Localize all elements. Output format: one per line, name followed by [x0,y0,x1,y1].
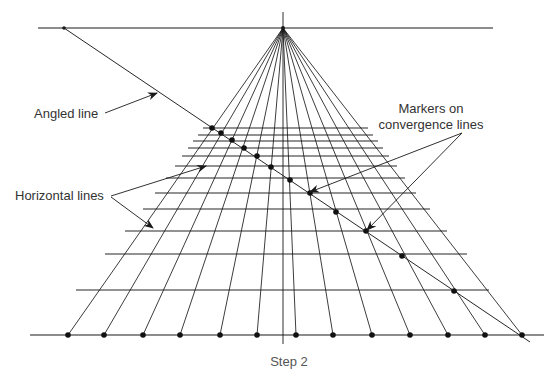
base-point [330,332,336,338]
markers-label-line1: Markers on [398,101,463,116]
convergence-marker [218,130,224,136]
convergence-line [180,28,283,335]
angled-line-label: Angled line [34,106,98,121]
convergence-marker [229,137,235,143]
convergence-line [283,28,372,335]
convergence-line [143,28,283,335]
convergence-line [283,28,410,335]
convergence-marker [287,177,293,183]
base-point [445,332,451,338]
base-point [65,332,71,338]
figure-caption: Step 2 [270,354,308,369]
base-point [519,332,525,338]
base-point [140,332,146,338]
convergence-line [68,28,283,335]
convergence-marker [241,145,247,151]
base-point [177,332,183,338]
markers-arrow-upper [310,133,462,192]
horizontal-lines-arrow-lower [111,197,153,228]
convergence-marker [399,253,405,259]
base-point [293,332,299,338]
base-point [101,332,107,338]
horizontal-lines-arrow-upper [111,166,206,196]
convergence-line [220,28,283,335]
convergence-marker [333,209,339,215]
convergence-marker [451,288,457,294]
base-point [254,332,260,338]
markers-label-line2: convergence lines [379,117,484,132]
base-point [407,332,413,338]
horizontal-lines [76,128,489,290]
angled-line-arrow [105,93,157,113]
base-point [482,332,488,338]
convergence-line [104,28,283,335]
convergence-line [257,28,283,335]
convergence-line [283,28,522,335]
perspective-diagram: Angled line Horizontal lines Markers on … [0,0,557,383]
base-point [369,332,375,338]
convergence-marker [254,153,260,159]
convergence-marker [268,164,274,170]
base-point [217,332,223,338]
convergence-marker [209,125,215,131]
horizontal-lines-label: Horizontal lines [15,188,104,203]
